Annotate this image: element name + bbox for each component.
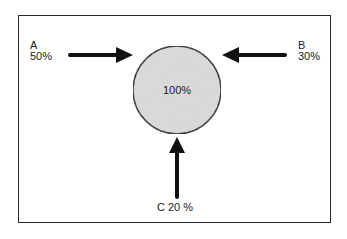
total-label: 100% — [163, 85, 191, 96]
arrow-a-icon — [70, 47, 133, 63]
input-c-label: C 20 % — [157, 202, 193, 213]
input-b-value: 30% — [298, 51, 320, 62]
diagram-canvas: 100% A 50% B 30% C 20 % — [0, 0, 347, 239]
arrow-c-icon — [169, 137, 185, 197]
input-a-value: 50% — [30, 51, 52, 62]
arrow-b-icon — [222, 47, 285, 63]
